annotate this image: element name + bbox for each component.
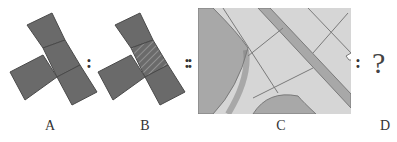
analogy-puzzle: : :: [0,0,397,142]
figure-a [0,0,100,112]
figure-c-map [198,8,351,114]
label-c: C [271,118,291,134]
unknown-answer: ? [372,46,385,80]
label-a: A [40,118,60,134]
label-b: B [135,118,155,134]
separator-b-c: :: [184,52,190,73]
label-d: D [375,118,395,134]
figure-b [88,0,188,112]
separator-c-d: : [355,52,361,73]
